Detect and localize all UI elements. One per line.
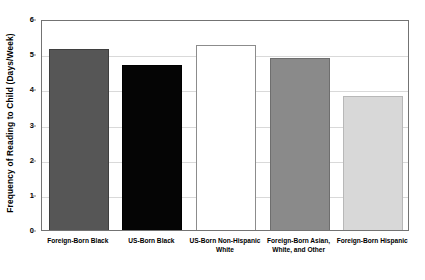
x-category-label-line: White, and Other [263, 245, 335, 254]
x-category-label-line: Foreign-Born Hispanic [336, 236, 408, 245]
y-tick-mark [32, 160, 36, 161]
x-category-label-line: Foreign-Born Asian, [263, 236, 335, 245]
plot-area [41, 20, 409, 231]
bars-group [42, 21, 408, 230]
x-category-label-line: Foreign-Born Black [42, 236, 114, 245]
x-category-label: Foreign-Born Asian,White, and Other [263, 236, 335, 254]
x-category-label: US-Born Non-HispanicWhite [189, 236, 261, 254]
bar [343, 96, 403, 230]
y-tick-mark [32, 20, 36, 21]
y-tick-mark [32, 231, 36, 232]
bar [122, 65, 182, 230]
y-tick-mark [32, 90, 36, 91]
y-axis-tick-labels: 0123456 [20, 0, 37, 245]
y-axis-title-text: Frequency of Reading to Child (Days/Week… [5, 33, 15, 213]
y-axis-title: Frequency of Reading to Child (Days/Week… [0, 0, 20, 245]
bar [196, 45, 256, 230]
bar [49, 49, 109, 230]
x-category-label: US-Born Black [116, 236, 188, 245]
y-tick-mark [32, 55, 36, 56]
x-category-label: Foreign-Born Black [42, 236, 114, 245]
x-category-label-line: US-Born Non-Hispanic [189, 236, 261, 245]
bar-chart: Frequency of Reading to Child (Days/Week… [0, 0, 425, 280]
x-axis-category-labels: Foreign-Born BlackUS-Born BlackUS-Born N… [41, 236, 409, 278]
x-category-label-line: US-Born Black [116, 236, 188, 245]
bar [270, 58, 330, 230]
y-tick-mark [32, 195, 36, 196]
x-category-label: Foreign-Born Hispanic [336, 236, 408, 245]
x-category-label-line: White [189, 245, 261, 254]
y-tick-mark [32, 125, 36, 126]
